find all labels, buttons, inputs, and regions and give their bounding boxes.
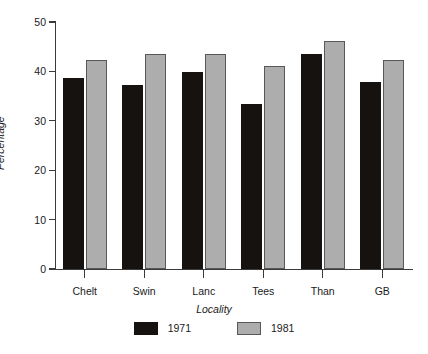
legend-swatch-1981: [237, 322, 261, 335]
legend-item-1981: 1981: [237, 322, 294, 335]
legend-label-1971: 1971: [168, 323, 191, 334]
x-tick-label-gb: GB: [375, 286, 390, 297]
x-tick-mark: [203, 269, 204, 278]
y-tick-label: 0: [0, 264, 46, 275]
x-tick-mark: [84, 269, 85, 278]
y-tick-label: 40: [0, 66, 46, 77]
x-tick-label-tees: Tees: [252, 286, 274, 297]
bar-than-1971: [301, 54, 322, 269]
y-tick-label: 20: [0, 165, 46, 176]
bar-swin-1981: [145, 54, 166, 269]
bar-lanc-1971: [182, 72, 203, 269]
bar-gb-1971: [360, 82, 381, 269]
plot-area: [55, 22, 412, 269]
bar-chelt-1981: [86, 60, 107, 269]
legend-label-1981: 1981: [271, 323, 294, 334]
x-tick-label-swin: Swin: [133, 286, 156, 297]
bar-tees-1971: [241, 104, 262, 269]
x-tick-label-than: Than: [311, 286, 335, 297]
y-tick-label: 50: [0, 17, 46, 28]
legend-swatch-1971: [134, 322, 158, 335]
legend-item-1971: 1971: [134, 322, 191, 335]
bar-chelt-1971: [63, 78, 84, 269]
bar-swin-1971: [122, 85, 143, 269]
bar-lanc-1981: [205, 54, 226, 269]
x-axis-title: Locality: [196, 303, 232, 315]
bar-tees-1981: [264, 66, 285, 269]
y-axis-title: Percentage: [0, 116, 6, 170]
bar-gb-1981: [383, 60, 404, 269]
x-tick-mark: [263, 269, 264, 278]
x-tick-mark: [322, 269, 323, 278]
y-tick-label: 30: [0, 116, 46, 127]
y-tick-label: 10: [0, 214, 46, 225]
x-tick-mark: [382, 269, 383, 278]
x-tick-label-chelt: Chelt: [72, 286, 97, 297]
bar-chart: 01020304050 CheltSwinLancTeesThanGB Perc…: [0, 0, 428, 354]
bar-than-1981: [324, 41, 345, 269]
x-tick-mark: [144, 269, 145, 278]
legend: 19711981: [0, 322, 428, 335]
x-tick-label-lanc: Lanc: [192, 286, 215, 297]
